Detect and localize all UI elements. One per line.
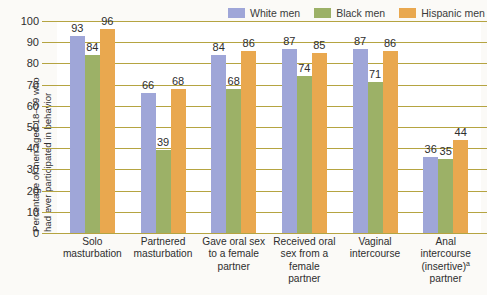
bar-group-bars: 846886 bbox=[198, 21, 269, 233]
bar-value-label: 39 bbox=[157, 137, 169, 148]
bar-group: 846886 bbox=[198, 21, 269, 233]
y-tick-mark-right bbox=[481, 148, 487, 149]
legend-item-hispanic-men: Hispanic men bbox=[399, 7, 485, 19]
x-axis-category-label: Gave oral sexto a femalepartner bbox=[198, 236, 269, 286]
x-axis-category-label: Vaginalintercourse bbox=[340, 236, 411, 286]
bar[interactable]: 35 bbox=[438, 21, 453, 233]
y-tick-mark bbox=[42, 191, 57, 192]
y-tick-mark-right bbox=[481, 127, 487, 128]
bar-rect bbox=[211, 55, 226, 233]
bar-value-label: 35 bbox=[440, 146, 452, 157]
bar-value-label: 68 bbox=[172, 76, 184, 87]
footnote-marker: a bbox=[466, 259, 470, 266]
y-axis-tick-label: 50 bbox=[27, 121, 39, 133]
bar-value-label: 44 bbox=[455, 127, 467, 138]
bar-value-label: 93 bbox=[71, 23, 83, 34]
bar[interactable]: 66 bbox=[141, 21, 156, 233]
y-tick-mark bbox=[42, 85, 57, 86]
legend-item-white-men: White men bbox=[228, 7, 300, 19]
bar-value-label: 86 bbox=[384, 38, 396, 49]
x-axis-category-line: partner bbox=[199, 261, 268, 273]
y-tick-mark-right bbox=[481, 21, 487, 22]
bar[interactable]: 44 bbox=[453, 21, 468, 233]
legend-label: Hispanic men bbox=[421, 7, 485, 19]
legend-swatch-icon bbox=[399, 8, 416, 18]
y-tick-mark bbox=[42, 148, 57, 149]
bar-group-bars: 663968 bbox=[128, 21, 199, 233]
bar-group: 877186 bbox=[340, 21, 411, 233]
bar-rect bbox=[70, 36, 85, 233]
bar[interactable]: 84 bbox=[85, 21, 100, 233]
y-axis-tick-label: 60 bbox=[27, 100, 39, 112]
y-tick-mark-right bbox=[481, 42, 487, 43]
bar-group-bars: 363544 bbox=[410, 21, 481, 233]
y-tick-mark bbox=[42, 21, 57, 22]
x-axis-category-label: Solomasturbation bbox=[57, 236, 128, 286]
bar[interactable]: 39 bbox=[156, 21, 171, 233]
legend-swatch-icon bbox=[314, 8, 331, 18]
x-axis-category-line: sex from a bbox=[270, 248, 339, 260]
bar-value-label: 84 bbox=[213, 42, 225, 53]
bar[interactable]: 36 bbox=[423, 21, 438, 233]
y-axis-tick-label: 70 bbox=[27, 79, 39, 91]
y-tick-mark-right bbox=[481, 63, 487, 64]
bar-rect bbox=[156, 150, 171, 233]
x-axis-category-line: Received oral bbox=[270, 236, 339, 248]
y-axis-tick-label: 80 bbox=[27, 57, 39, 69]
x-axis-category-line: masturbation bbox=[129, 248, 198, 260]
bar-chart: White menBlack menHispanic men Percentag… bbox=[0, 0, 487, 295]
bar-group: 938496 bbox=[57, 21, 128, 233]
x-axis-category-line: partner bbox=[270, 273, 339, 285]
bar-group: 877485 bbox=[269, 21, 340, 233]
bar-groups: 938496663968846886877485877186363544 bbox=[57, 21, 481, 233]
y-axis-tick-label: 20 bbox=[27, 185, 39, 197]
bar-value-label: 86 bbox=[243, 38, 255, 49]
bar-rect bbox=[85, 55, 100, 233]
x-axis-category-line: Gave oral sex bbox=[199, 236, 268, 248]
bar[interactable]: 86 bbox=[383, 21, 398, 233]
bar-rect bbox=[141, 93, 156, 233]
bar[interactable]: 86 bbox=[241, 21, 256, 233]
x-axis-category-line: Partnered bbox=[129, 236, 198, 248]
x-axis-category-line: masturbation bbox=[58, 248, 127, 260]
y-axis-tick-label: 90 bbox=[27, 36, 39, 48]
bar-value-label: 87 bbox=[354, 36, 366, 47]
y-tick-mark bbox=[42, 106, 57, 107]
bar[interactable]: 68 bbox=[226, 21, 241, 233]
x-axis-category-line: Solo bbox=[58, 236, 127, 248]
bar[interactable]: 68 bbox=[171, 21, 186, 233]
x-axis-category-line: intercourse bbox=[341, 248, 410, 260]
bar-rect bbox=[438, 159, 453, 233]
bar-value-label: 71 bbox=[369, 69, 381, 80]
legend-label: White men bbox=[250, 7, 300, 19]
y-tick-mark-right bbox=[481, 191, 487, 192]
bar[interactable]: 96 bbox=[100, 21, 115, 233]
bar-rect bbox=[171, 89, 186, 233]
y-tick-mark bbox=[42, 169, 57, 170]
bar-value-label: 85 bbox=[313, 40, 325, 51]
bar-rect bbox=[226, 89, 241, 233]
y-tick-mark bbox=[42, 63, 57, 64]
bar[interactable]: 93 bbox=[70, 21, 85, 233]
x-axis-category-line: Anal bbox=[411, 236, 480, 248]
bar-rect bbox=[423, 157, 438, 233]
y-tick-mark-right bbox=[481, 169, 487, 170]
bar-value-label: 84 bbox=[86, 42, 98, 53]
gridline-0: 0 bbox=[57, 233, 481, 234]
bar[interactable]: 71 bbox=[368, 21, 383, 233]
bar[interactable]: 84 bbox=[211, 21, 226, 233]
bar-value-label: 74 bbox=[298, 63, 310, 74]
bar[interactable]: 87 bbox=[353, 21, 368, 233]
bar-value-label: 87 bbox=[283, 36, 295, 47]
x-axis-category-line: partner bbox=[411, 273, 480, 285]
x-axis-category-line: (insertive)a bbox=[411, 261, 480, 273]
y-tick-mark-right bbox=[481, 233, 487, 234]
x-axis-category-label: Partneredmasturbation bbox=[128, 236, 199, 286]
bar[interactable]: 85 bbox=[312, 21, 327, 233]
x-axis-category-label: Received oralsex from afemalepartner bbox=[269, 236, 340, 286]
bar[interactable]: 87 bbox=[282, 21, 297, 233]
bar[interactable]: 74 bbox=[297, 21, 312, 233]
bar-rect bbox=[297, 76, 312, 233]
bar-group: 363544 bbox=[410, 21, 481, 233]
y-tick-mark-right bbox=[481, 212, 487, 213]
